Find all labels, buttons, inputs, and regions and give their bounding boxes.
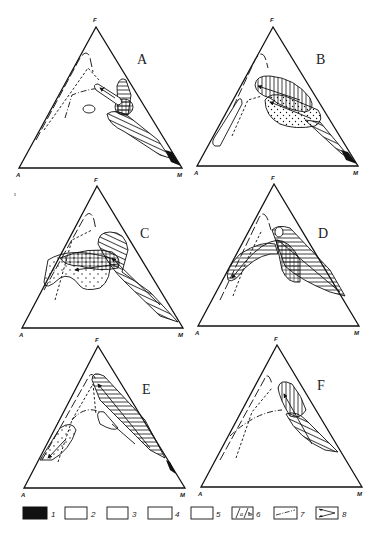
- stray-mark: ı: [14, 190, 16, 198]
- legend-number: 6: [256, 510, 261, 519]
- panel-label: D: [318, 226, 328, 241]
- legend-item-2: 2: [65, 507, 96, 519]
- vertex-label-m: M: [357, 491, 363, 497]
- legend-item-5: 5: [191, 507, 221, 519]
- legend-item-7: 7: [274, 507, 305, 519]
- field-diagonal-hatch: [286, 413, 338, 452]
- field-outline-small: [83, 105, 95, 113]
- vertex-label-f: F: [93, 17, 97, 23]
- vertex-label-m: M: [178, 332, 184, 338]
- vertex-label-m: M: [177, 172, 183, 178]
- legend-swatch-horizontal-hatch: [65, 507, 87, 519]
- afm-figure: F A M A F A M B ı F A: [0, 0, 377, 535]
- legend-number: 7: [300, 510, 305, 519]
- trend-arrow: [112, 258, 160, 305]
- legend-item-4: 4: [148, 507, 180, 519]
- tholeiite-trend-line: [44, 68, 99, 130]
- legend-swatch-solid: [23, 507, 47, 519]
- legend-number: 1: [51, 510, 55, 519]
- vertex-label-f: F: [271, 175, 275, 181]
- tholeiite-trend-line: [236, 388, 272, 458]
- vertex-label-a: A: [193, 170, 198, 176]
- legend-item-1: 1: [23, 507, 55, 519]
- legend-swatch-vertical-hatch: [107, 507, 128, 519]
- panel-b: F A M B: [193, 17, 359, 176]
- panel-d: F A M D: [194, 175, 360, 336]
- legend-swatch-sparse-dots: [191, 507, 213, 519]
- vertex-label-a: A: [18, 332, 23, 338]
- legend-item-8: 8: [316, 507, 347, 519]
- panel-label: E: [142, 382, 151, 397]
- vertex-label-a: A: [197, 491, 202, 497]
- panel-label: A: [137, 52, 148, 67]
- panel-a: F A M A: [15, 17, 183, 178]
- legend-item-6: a b 6: [232, 507, 261, 519]
- legend-number: 8: [342, 510, 347, 519]
- vertex-label-f: F: [95, 337, 99, 343]
- field-diagonal-hatch: [98, 232, 178, 322]
- vertex-label-a: A: [194, 330, 199, 336]
- legend-number: 5: [216, 510, 221, 519]
- legend-swatch-dotted: [148, 507, 172, 519]
- ternary-triangle: [198, 184, 359, 326]
- panel-label: B: [316, 52, 325, 67]
- vertex-label-f: F: [270, 17, 274, 23]
- legend: 1 2 3 4 5 a b 6 7: [23, 507, 347, 519]
- svg-text:a: a: [240, 511, 243, 517]
- vertex-label-f: F: [274, 336, 278, 342]
- vertex-label-a: A: [20, 492, 25, 498]
- field-dotted: [40, 424, 76, 460]
- panel-c: F A M C: [18, 177, 184, 338]
- field-outline-small: [275, 227, 283, 237]
- panel-f: F A M F: [197, 336, 363, 497]
- panel-label: C: [140, 226, 149, 241]
- panel-e: F A M E: [20, 337, 186, 498]
- ternary-triangle: [201, 345, 362, 487]
- legend-number: 2: [90, 510, 96, 519]
- vertex-label-f: F: [94, 177, 98, 183]
- vertex-label-m: M: [353, 170, 359, 176]
- vertex-label-a: A: [15, 172, 20, 178]
- calc-alkaline-boundary: [220, 376, 272, 460]
- legend-number: 4: [175, 510, 180, 519]
- field-solid-black: [166, 460, 176, 474]
- vertex-label-m: M: [180, 492, 186, 498]
- svg-text:b: b: [248, 510, 252, 518]
- legend-item-3: 3: [107, 507, 137, 519]
- dash-dot-trend: [230, 410, 282, 436]
- legend-swatch-line: [274, 507, 297, 519]
- panel-label: F: [317, 378, 325, 393]
- calc-alkaline-boundary: [36, 53, 93, 140]
- vertex-label-m: M: [354, 330, 360, 336]
- legend-number: 3: [132, 510, 137, 519]
- field-diagonal-hatch: [107, 111, 170, 158]
